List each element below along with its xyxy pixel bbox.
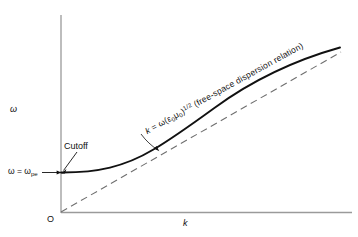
cutoff-value-subscript: pe	[31, 170, 38, 177]
free-space-asymptote-line	[61, 52, 341, 212]
x-axis-label: k	[183, 219, 188, 228]
cutoff-value-arrow	[42, 170, 61, 174]
cutoff-label: Cutoff	[64, 142, 88, 151]
origin-label: O	[47, 215, 54, 224]
cutoff-arrow	[61, 152, 77, 174]
plasma-dispersion-curve	[61, 48, 340, 173]
dispersion-relation-figure: ω k O Cutoff ω = ωpe k = ω(ε0μ0)1/2 (fre…	[0, 0, 358, 237]
cutoff-value-label: ω = ωpe	[8, 167, 38, 177]
y-axis-label: ω	[10, 105, 17, 114]
cutoff-value-prefix: ω = ω	[8, 166, 31, 176]
